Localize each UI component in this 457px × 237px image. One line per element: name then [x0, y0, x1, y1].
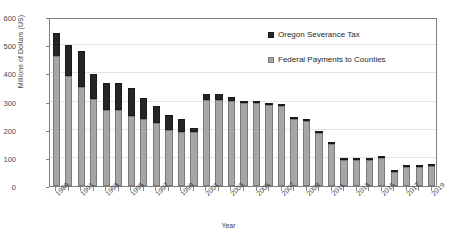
y-axis-tick-label: 600 — [0, 14, 16, 23]
bar-segment-oregon-severance-tax[interactable] — [115, 83, 122, 110]
legend-label: Federal Payments to Counties — [278, 55, 386, 64]
bar-segment-federal-payments-to-counties[interactable] — [228, 101, 235, 186]
x-axis-tick-mark — [218, 187, 219, 191]
bar-segment-oregon-severance-tax[interactable] — [103, 83, 110, 110]
y-axis-tick-label: 400 — [0, 70, 16, 79]
x-axis-tick-mark — [268, 187, 269, 191]
x-axis-tick-mark — [68, 187, 69, 191]
bar-stack[interactable] — [378, 156, 385, 186]
bar-stack[interactable] — [115, 83, 122, 186]
x-axis-tick-mark — [393, 187, 394, 191]
bar-segment-oregon-severance-tax[interactable] — [65, 45, 72, 77]
bar-segment-oregon-severance-tax[interactable] — [90, 74, 97, 99]
bar-segment-oregon-severance-tax[interactable] — [153, 106, 160, 124]
bar-segment-federal-payments-to-counties[interactable] — [290, 119, 297, 186]
bar-segment-federal-payments-to-counties[interactable] — [128, 116, 135, 186]
bar-stack[interactable] — [140, 98, 147, 186]
bar-stack[interactable] — [403, 165, 410, 186]
bar-segment-federal-payments-to-counties[interactable] — [190, 132, 197, 186]
x-axis-tick-mark — [368, 187, 369, 191]
bar-stack[interactable] — [78, 51, 85, 186]
bar-stack[interactable] — [103, 83, 110, 186]
y-axis-title: Millions of Dollars (US) — [17, 0, 24, 112]
bar-stack[interactable] — [428, 164, 435, 186]
bar-chart: Millions of Dollars (US) 010020030040050… — [0, 0, 457, 237]
bar-segment-federal-payments-to-counties[interactable] — [90, 99, 97, 186]
bar-segment-federal-payments-to-counties[interactable] — [265, 105, 272, 186]
bar-stack[interactable] — [215, 94, 222, 186]
bar-stack[interactable] — [240, 101, 247, 186]
bar-segment-federal-payments-to-counties[interactable] — [140, 119, 147, 186]
x-axis-tick-mark — [93, 187, 94, 191]
legend-item-federal-payments-to-counties: Federal Payments to Counties — [268, 55, 386, 64]
bar-stack[interactable] — [278, 104, 285, 186]
bar-segment-federal-payments-to-counties[interactable] — [203, 100, 210, 186]
legend-label: Oregon Severance Tax — [278, 30, 360, 39]
x-axis-tick-mark — [293, 187, 294, 191]
x-axis-tick-mark — [143, 187, 144, 191]
bar-stack[interactable] — [228, 97, 235, 186]
bar-stack[interactable] — [265, 103, 272, 186]
legend-swatch-icon-gray — [268, 57, 274, 63]
bar-segment-oregon-severance-tax[interactable] — [140, 98, 147, 119]
bar-segment-federal-payments-to-counties[interactable] — [78, 87, 85, 186]
x-axis-title: Year — [0, 222, 457, 229]
x-axis-tick-mark — [343, 187, 344, 191]
bar-segment-oregon-severance-tax[interactable] — [128, 88, 135, 115]
bar-stack[interactable] — [165, 115, 172, 186]
x-axis-tick-mark — [118, 187, 119, 191]
y-axis-tick-label: 0 — [0, 183, 16, 192]
legend-swatch-icon-black — [268, 32, 274, 38]
x-axis-tick-mark — [418, 187, 419, 191]
bar-stack[interactable] — [203, 94, 210, 186]
bar-stack[interactable] — [303, 119, 310, 186]
bar-segment-federal-payments-to-counties[interactable] — [65, 76, 72, 186]
bar-segment-federal-payments-to-counties[interactable] — [353, 160, 360, 186]
bar-segment-federal-payments-to-counties[interactable] — [315, 133, 322, 186]
bar-segment-oregon-severance-tax[interactable] — [178, 119, 185, 132]
bar-segment-oregon-severance-tax[interactable] — [165, 115, 172, 130]
bar-segment-federal-payments-to-counties[interactable] — [215, 100, 222, 186]
bar-segment-federal-payments-to-counties[interactable] — [253, 103, 260, 186]
x-axis-tick-mark — [243, 187, 244, 191]
bar-segment-federal-payments-to-counties[interactable] — [240, 103, 247, 186]
bar-segment-federal-payments-to-counties[interactable] — [428, 166, 435, 186]
bar-stack[interactable] — [178, 119, 185, 186]
y-axis-tick-label: 300 — [0, 99, 16, 108]
bar-segment-federal-payments-to-counties[interactable] — [328, 144, 335, 186]
bar-stack[interactable] — [153, 106, 160, 186]
bar-segment-federal-payments-to-counties[interactable] — [153, 123, 160, 186]
bar-stack[interactable] — [253, 101, 260, 186]
bar-stack[interactable] — [90, 74, 97, 186]
bar-segment-federal-payments-to-counties[interactable] — [103, 110, 110, 186]
bar-segment-oregon-severance-tax[interactable] — [78, 51, 85, 87]
bar-segment-federal-payments-to-counties[interactable] — [178, 132, 185, 186]
bar-segment-oregon-severance-tax[interactable] — [53, 33, 60, 57]
bar-segment-federal-payments-to-counties[interactable] — [378, 158, 385, 186]
bar-stack[interactable] — [53, 33, 60, 187]
y-axis-tick-label: 100 — [0, 155, 16, 164]
bar-segment-federal-payments-to-counties[interactable] — [53, 56, 60, 186]
bar-stack[interactable] — [128, 88, 135, 186]
x-axis-tick-mark — [168, 187, 169, 191]
y-axis-tick-mark — [46, 187, 49, 188]
bar-stack[interactable] — [328, 142, 335, 186]
legend-item-oregon-severance-tax: Oregon Severance Tax — [268, 30, 386, 39]
bar-segment-federal-payments-to-counties[interactable] — [115, 110, 122, 186]
bar-segment-federal-payments-to-counties[interactable] — [303, 121, 310, 186]
chart-legend: Oregon Severance Tax Federal Payments to… — [268, 30, 386, 80]
bar-segment-federal-payments-to-counties[interactable] — [403, 167, 410, 186]
bar-segment-federal-payments-to-counties[interactable] — [165, 130, 172, 186]
bar-stack[interactable] — [353, 158, 360, 186]
bar-stack[interactable] — [65, 45, 72, 186]
x-axis-tick-mark — [318, 187, 319, 191]
bar-stack[interactable] — [190, 128, 197, 186]
x-axis-tick-mark — [193, 187, 194, 191]
bar-stack[interactable] — [290, 117, 297, 186]
bar-stack[interactable] — [315, 131, 322, 186]
bar-segment-federal-payments-to-counties[interactable] — [278, 106, 285, 186]
y-axis-tick-label: 500 — [0, 42, 16, 51]
y-axis-tick-label: 200 — [0, 127, 16, 136]
